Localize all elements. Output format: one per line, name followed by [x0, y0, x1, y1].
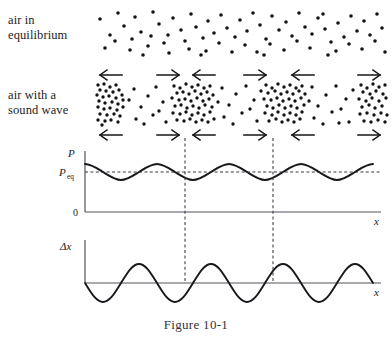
- arrow-right-2: [244, 70, 266, 80]
- equilibrium-dots: [98, 10, 387, 57]
- displacement-y-axis-label: Δx: [59, 240, 71, 252]
- arrow-right-3: [358, 70, 380, 80]
- pressure-y-axis-label: P: [67, 147, 75, 159]
- air-equilibrium-dot-field: [96, 8, 388, 58]
- figure-caption: Figure 10-1: [0, 317, 392, 333]
- arrow-right-5: [244, 130, 266, 140]
- pressure-origin-label: 0: [73, 207, 78, 218]
- arrow-right-6: [358, 130, 380, 140]
- pressure-graph: P P eq 0 x: [56, 146, 392, 226]
- svg-text:Δx: Δx: [59, 240, 71, 252]
- arrow-right-4: [157, 130, 179, 140]
- arrow-right-1: [157, 70, 179, 80]
- arrow-left-6: [292, 130, 314, 140]
- air-sound-wave-dot-field: [96, 82, 388, 126]
- arrow-left-3: [292, 70, 314, 80]
- displacement-graph: Δx x: [56, 236, 392, 316]
- arrow-left-5: [193, 130, 215, 140]
- arrow-left-4: [100, 130, 122, 140]
- svg-text:eq: eq: [67, 172, 74, 181]
- row-label-air-in-equilibrium: air in equilibrium: [8, 13, 67, 43]
- pressure-x-axis-label: x: [373, 215, 379, 227]
- arrow-row-top: [96, 68, 388, 82]
- arrow-left-1: [100, 70, 122, 80]
- arrow-left-2: [193, 70, 215, 80]
- pressure-eq-label: P eq: [58, 166, 74, 181]
- svg-text:P: P: [58, 166, 66, 178]
- sound-wave-dots: [95, 82, 388, 126]
- figure-10-1: air in equilibrium air with a sound wave: [0, 0, 392, 346]
- arrow-row-bottom: [96, 128, 388, 142]
- displacement-x-axis-label: x: [373, 286, 379, 298]
- row-label-air-with-sound-wave: air with a sound wave: [8, 88, 68, 118]
